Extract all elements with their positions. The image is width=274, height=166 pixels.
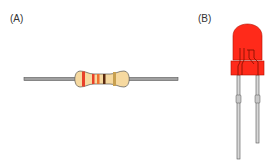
led-icon xyxy=(231,24,264,159)
figure-canvas xyxy=(0,0,274,166)
resistor-icon xyxy=(24,71,178,87)
